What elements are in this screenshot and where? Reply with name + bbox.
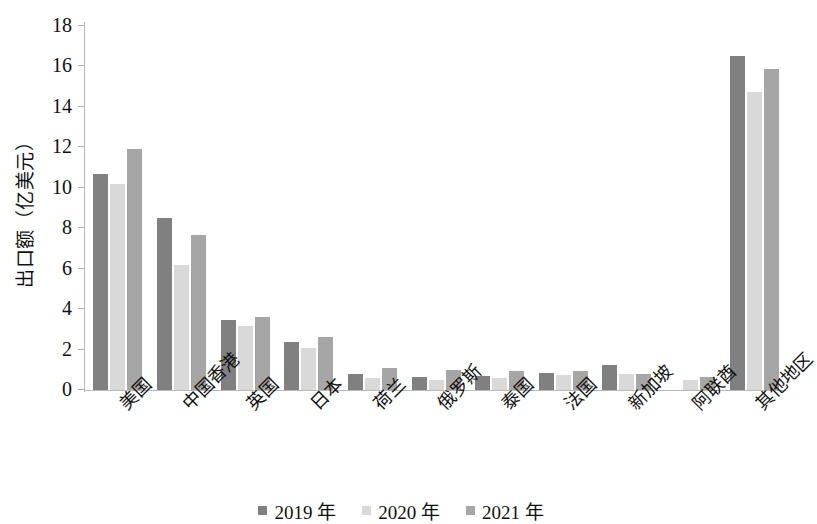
y-axis-title: 出口额（亿美元）	[10, 95, 37, 325]
legend-swatch-icon	[466, 506, 475, 515]
legend-label: 2021 年	[482, 497, 544, 524]
y-axis-tick-label: 14	[28, 94, 72, 119]
bar-group	[730, 26, 779, 390]
bar-group	[602, 26, 651, 390]
bar	[174, 265, 189, 390]
legend-item[interactable]: 2021 年	[466, 497, 544, 524]
bar	[764, 69, 779, 390]
y-axis-tick-label: 18	[28, 13, 72, 38]
bar	[110, 184, 125, 390]
bar	[539, 373, 554, 390]
y-axis-tick-label: 2	[28, 337, 72, 362]
bar	[730, 56, 745, 390]
bar-group	[284, 26, 333, 390]
bar-group	[666, 26, 715, 390]
bar-group	[475, 26, 524, 390]
y-axis-tick-label: 10	[28, 175, 72, 200]
bars-layer	[84, 26, 784, 390]
bar	[93, 174, 108, 390]
bar-group	[539, 26, 588, 390]
bar-group	[221, 26, 270, 390]
y-axis-tick-label: 6	[28, 256, 72, 281]
y-axis-tick-label: 16	[28, 53, 72, 78]
bar-group	[412, 26, 461, 390]
chart-legend: 2019 年2020 年2021 年	[0, 497, 802, 524]
legend-swatch-icon	[258, 506, 267, 515]
bar-group	[348, 26, 397, 390]
bar-group	[157, 26, 206, 390]
y-axis-tick-label: 8	[28, 215, 72, 240]
y-axis-tick-label: 12	[28, 134, 72, 159]
legend-item[interactable]: 2019 年	[258, 497, 336, 524]
bar	[284, 342, 299, 390]
bar	[127, 149, 142, 390]
y-axis-tick-label: 4	[28, 296, 72, 321]
legend-swatch-icon	[362, 506, 371, 515]
bar	[348, 374, 363, 390]
legend-item[interactable]: 2020 年	[362, 497, 440, 524]
bar	[412, 377, 427, 390]
y-axis-tick-label: 0	[28, 377, 72, 402]
bar	[747, 92, 762, 390]
legend-label: 2019 年	[274, 497, 336, 524]
bar-group	[93, 26, 142, 390]
x-axis-labels: 美国中国香港英国日本荷兰俄罗斯泰国法国新加坡阿联酋其他地区	[84, 390, 784, 490]
bar	[602, 365, 617, 390]
bar	[157, 218, 172, 390]
legend-label: 2020 年	[378, 497, 440, 524]
